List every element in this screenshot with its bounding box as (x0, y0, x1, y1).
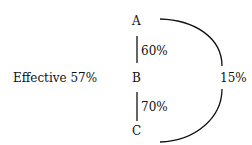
edge-a-c-arc-upper (160, 19, 222, 66)
node-c: C (132, 124, 141, 138)
edge-a-c-arc-lower (160, 89, 222, 142)
edge-a-b-label: 60% (141, 44, 168, 58)
node-b: B (132, 71, 141, 85)
edge-b-c-label: 70% (141, 100, 168, 114)
effective-annotation: Effective 57% (13, 71, 97, 85)
edge-a-c-label: 15% (220, 71, 247, 85)
node-a: A (132, 14, 141, 28)
